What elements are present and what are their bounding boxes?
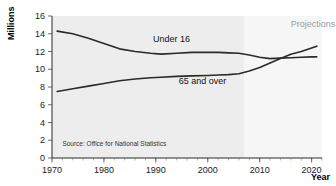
y-axis-title: Millions [6, 7, 16, 41]
x-tick-label-1970: 1970 [42, 165, 62, 175]
shaded-region-projected [244, 16, 322, 158]
x-tick-label-1980: 1980 [94, 165, 114, 175]
y-tick-label-8: 8 [40, 82, 45, 92]
series-label-under-16: Under 16 [153, 34, 190, 44]
y-tick-label-10: 10 [35, 64, 45, 74]
annotation-projections: Projections [291, 19, 336, 29]
y-tick-label-0: 0 [40, 153, 45, 163]
y-tick-label-12: 12 [35, 47, 45, 57]
y-tick-label-2: 2 [40, 135, 45, 145]
y-tick-label-4: 4 [40, 118, 45, 128]
x-tick-label-1990: 1990 [146, 165, 166, 175]
x-tick-label-2010: 2010 [250, 165, 270, 175]
population-line-chart: 0246810121416197019801990200020102020Mil… [0, 0, 336, 186]
y-tick-label-16: 16 [35, 11, 45, 21]
x-axis-title: Year [311, 172, 331, 182]
series-label-65-and-over: 65 and over [179, 76, 227, 86]
x-tick-label-2000: 2000 [198, 165, 218, 175]
chart-canvas: 0246810121416197019801990200020102020Mil… [0, 0, 336, 186]
annotation-source: Source: Office for National Statistics [62, 140, 167, 147]
y-tick-label-14: 14 [35, 29, 45, 39]
y-tick-label-6: 6 [40, 100, 45, 110]
